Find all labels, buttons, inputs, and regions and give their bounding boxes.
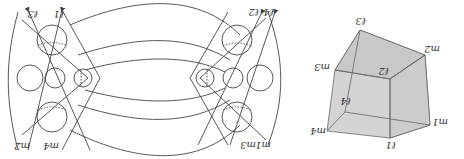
- label-m3-bottom-right: m3: [240, 140, 256, 151]
- vertex-l1: ℓ1: [385, 140, 396, 151]
- cube: [327, 30, 430, 138]
- vertex-l4: ℓ4: [340, 96, 351, 107]
- label-m2-bottom-left: m2: [14, 141, 30, 152]
- label-m1-bottom-right: m1: [255, 140, 271, 151]
- vertex-m4: m4: [310, 126, 326, 137]
- label-l4-top-right: ℓ4: [263, 7, 274, 18]
- circle-left-small: [74, 69, 92, 87]
- circle-right-inner: [223, 68, 243, 88]
- circle-right-small: [196, 69, 214, 87]
- figure: ℓ3 ℓ1 m2 m4 ℓ2 ℓ4 m3 m1 ℓ3 m2 m3 ℓ2 m1 ℓ…: [0, 0, 464, 159]
- circle-right-top: [222, 25, 252, 55]
- link-diagram: [8, 4, 281, 156]
- vertex-m1: m1: [432, 117, 448, 128]
- vertex-m3: m3: [314, 62, 330, 73]
- circle-left-outer: [17, 65, 43, 91]
- label-l1-top-left: ℓ1: [53, 9, 64, 20]
- label-l2-top-right: ℓ2: [248, 7, 259, 18]
- label-m4-bottom-left: m4: [43, 141, 59, 152]
- circle-right-outer: [247, 65, 273, 91]
- vertex-m2: m2: [424, 44, 440, 55]
- label-l3-top-left: ℓ3: [27, 9, 38, 20]
- vertex-l2: ℓ2: [378, 66, 389, 77]
- circle-left-bottom: [37, 102, 67, 132]
- vertex-l3: ℓ3: [355, 16, 366, 27]
